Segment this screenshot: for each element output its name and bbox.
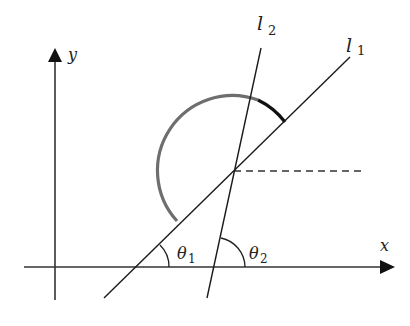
y-axis-arrow-icon	[48, 48, 62, 62]
angle-arc-gray	[157, 96, 258, 221]
svg-text:l: l	[257, 12, 263, 34]
line-l1	[104, 57, 350, 298]
label-theta1: θ 1	[177, 244, 196, 266]
theta2-arc	[221, 238, 245, 267]
y-axis-label: y	[67, 45, 78, 64]
svg-text:θ: θ	[177, 244, 187, 263]
y-axis	[48, 48, 62, 300]
svg-text:1: 1	[357, 43, 365, 58]
svg-text:l: l	[346, 34, 352, 56]
svg-text:θ: θ	[249, 244, 259, 263]
label-l2: l 2	[257, 12, 276, 38]
svg-text:1: 1	[188, 252, 196, 266]
x-axis-label: x	[380, 236, 389, 255]
svg-text:2: 2	[260, 252, 268, 266]
x-axis-arrow-icon	[380, 260, 395, 274]
angle-arc-dark	[258, 100, 285, 122]
label-l1: l 1	[346, 34, 365, 58]
x-axis	[24, 260, 395, 274]
label-theta2: θ 2	[249, 244, 268, 266]
theta1-arc	[160, 245, 169, 267]
diagram-canvas: x y l 1 l 2 θ 1 θ 2	[0, 0, 410, 326]
svg-text:2: 2	[268, 23, 276, 38]
